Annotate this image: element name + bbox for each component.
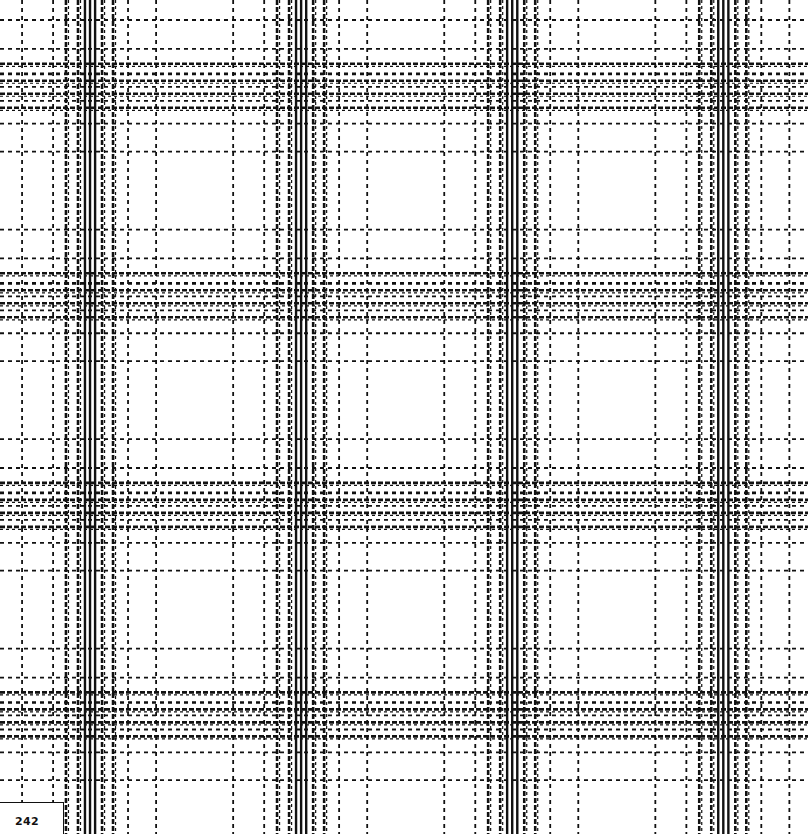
page-number-box: 242 (0, 802, 64, 834)
page-number: 242 (15, 815, 39, 828)
plaid-pattern (0, 0, 808, 834)
